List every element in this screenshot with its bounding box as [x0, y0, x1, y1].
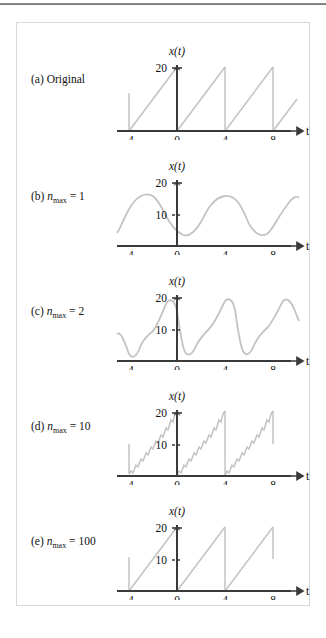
panel-label-d-eq: =: [70, 420, 77, 432]
plot-c: x(t) 20 10 -4 0 4 8 t (s): [95, 255, 311, 370]
plot-b: x(t) 20 10 -4 0 4 8 t (s): [95, 140, 311, 255]
panel-label-c-nmax: 2: [78, 305, 84, 317]
figure-panel-a: (a) Original: [17, 25, 311, 140]
plot-e: x(t) 20 10 -4 0 4 8 t (s): [95, 485, 311, 600]
figure-container: (a) Original: [16, 22, 310, 606]
panel-label-d-sub: max: [53, 426, 67, 435]
axes-e: [117, 525, 291, 591]
page-top-rule: [0, 3, 326, 5]
x-axis-arrow-b: [291, 243, 303, 250]
panel-label-b-sub: max: [53, 196, 67, 205]
y-axis-label-e: x(t): [168, 505, 185, 518]
panel-label-a-text: Original: [47, 73, 85, 85]
y-tick-label-20-e: 20: [156, 522, 168, 534]
x-axis-label-c: t (s): [306, 355, 311, 368]
axes-c: [117, 295, 291, 361]
x-axis-arrow-d: [291, 473, 303, 480]
figure-panel-d: (d) nmax = 10: [17, 370, 311, 485]
curve-a: [129, 67, 297, 131]
y-tick-label-20-b: 20: [156, 177, 168, 189]
panel-label-b-prefix: (b): [31, 190, 44, 202]
figure-panel-e: (e) nmax = 100: [17, 485, 311, 600]
panel-label-d-nmax: 10: [79, 420, 91, 432]
x-axis-label-b: t (s): [306, 240, 311, 253]
y-tick-label-10-c: 10: [156, 324, 168, 336]
y-tick-label-10-e: 10: [156, 554, 168, 566]
curve-e: [129, 527, 273, 591]
x-axis-label-d: t (s): [306, 470, 311, 483]
figure-panel-b: (b) nmax = 1 x(t) 20 10 -4: [17, 140, 311, 255]
y-tick-label-10-b: 10: [156, 209, 168, 221]
x-axis-label-a: t (s): [306, 125, 311, 138]
panel-label-b-nmax: 1: [79, 190, 85, 202]
x-tick-label-m4-e: -4: [124, 594, 134, 600]
y-tick-label-20-a: 20: [156, 62, 168, 74]
panel-label-c-eq: =: [69, 305, 76, 317]
x-axis-arrow-a: [291, 128, 303, 135]
panel-label-e-nmax: 100: [78, 535, 95, 547]
x-tick-label-0-e: 0: [174, 594, 180, 600]
x-tick-label-8-e: 8: [270, 594, 276, 600]
plot-a: x(t) 20 -4 0 4 8 t (s): [95, 25, 311, 140]
x-axis-arrow-e: [291, 588, 303, 595]
y-axis-label-d: x(t): [168, 390, 185, 403]
curve-c: [117, 299, 299, 357]
y-axis-label-c: x(t): [168, 275, 185, 288]
panel-label-d-prefix: (d): [31, 420, 44, 432]
plot-d: x(t) 20 10 -4 0 4 8 t (s): [95, 370, 311, 485]
axes-b: [117, 180, 291, 246]
curve-d: [129, 411, 273, 476]
panel-label-a-prefix: (a): [31, 73, 44, 85]
x-tick-label-4-e: 4: [222, 594, 228, 600]
panel-label-e-sub: max: [52, 541, 66, 550]
y-tick-label-20-c: 20: [156, 292, 168, 304]
x-axis-label-e: t (s): [306, 585, 311, 598]
y-tick-label-10-d: 10: [156, 439, 168, 451]
panel-label-e-prefix: (e): [31, 535, 44, 547]
panel-label-c-sub: max: [52, 311, 66, 320]
x-axis-arrow-c: [291, 358, 303, 365]
panel-label-e-eq: =: [69, 535, 76, 547]
curve-b: [117, 194, 299, 235]
panel-label-b-eq: =: [70, 190, 77, 202]
panel-label-c-prefix: (c): [31, 305, 44, 317]
y-axis-label-a: x(t): [168, 45, 185, 58]
figure-panel-c: (c) nmax = 2 x(t) 20 10 -4: [17, 255, 311, 370]
y-axis-label-b: x(t): [168, 160, 185, 173]
y-tick-label-20-d: 20: [156, 407, 168, 419]
axes-a: [117, 65, 291, 131]
